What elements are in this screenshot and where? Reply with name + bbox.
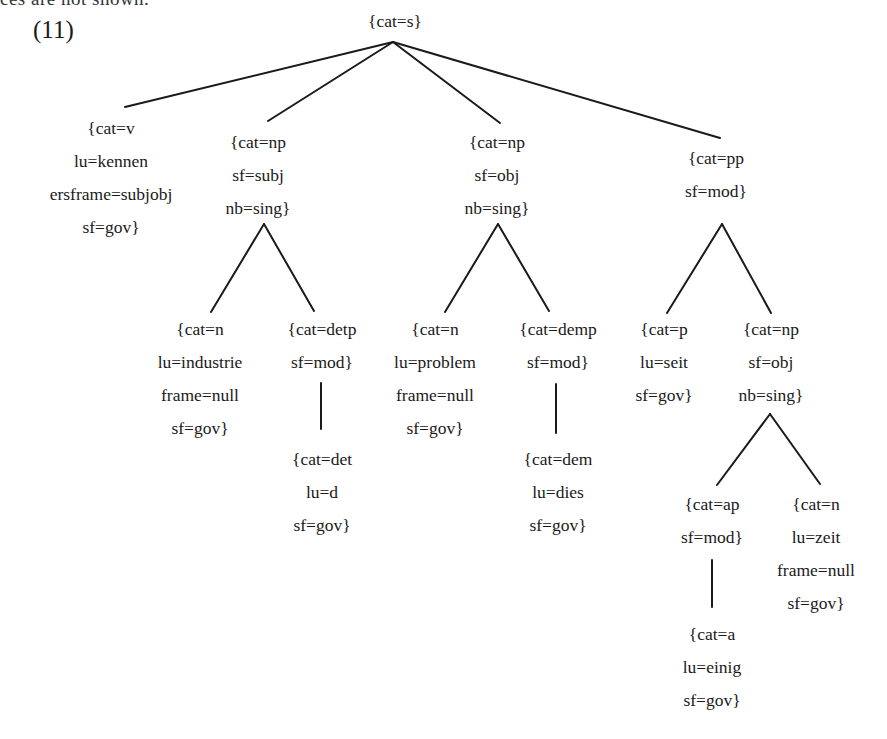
- node-v: {cat=v lu=kennen ersframe=subjobj sf=gov…: [50, 112, 173, 244]
- edge-s-v: [125, 42, 393, 107]
- edge-pp-p: [667, 224, 722, 313]
- node-demp: {cat=demp sf=mod}: [519, 313, 597, 379]
- node-n-industrie: {cat=n lu=industrie frame=null sf=gov}: [158, 313, 243, 445]
- node-np-obj: {cat=np sf=obj nb=sing}: [465, 126, 530, 225]
- edge-s-np-obj: [393, 42, 500, 123]
- node-s: {cat=s}: [368, 5, 422, 38]
- edge-np-ap: [717, 414, 770, 485]
- edge-s-np-subj: [268, 42, 393, 121]
- edge-s-pp: [393, 42, 720, 138]
- node-ap: {cat=ap sf=mod}: [681, 488, 743, 554]
- node-np-pp: {cat=np sf=obj nb=sing}: [739, 313, 804, 412]
- edge-np-subj-n: [211, 224, 264, 312]
- node-n-problem: {cat=n lu=problem frame=null sf=gov}: [394, 313, 476, 445]
- node-det: {cat=det lu=d sf=gov}: [292, 443, 352, 542]
- node-a: {cat=a lu=einig sf=gov}: [683, 618, 741, 717]
- edge-np-subj-detp: [264, 224, 314, 311]
- node-np-subj: {cat=np sf=subj nb=sing}: [226, 126, 291, 225]
- node-pp: {cat=pp sf=mod}: [685, 142, 747, 208]
- node-p: {cat=p lu=seit sf=gov}: [635, 313, 692, 412]
- node-detp: {cat=detp sf=mod}: [288, 313, 357, 379]
- node-n-zeit: {cat=n lu=zeit frame=null sf=gov}: [777, 488, 855, 620]
- edge-np-obj-demp: [498, 224, 549, 311]
- edge-np-n-zeit: [770, 414, 820, 484]
- node-dem: {cat=dem lu=dies sf=gov}: [524, 443, 593, 542]
- edge-pp-np: [722, 224, 771, 313]
- edge-np-obj-n: [445, 224, 498, 312]
